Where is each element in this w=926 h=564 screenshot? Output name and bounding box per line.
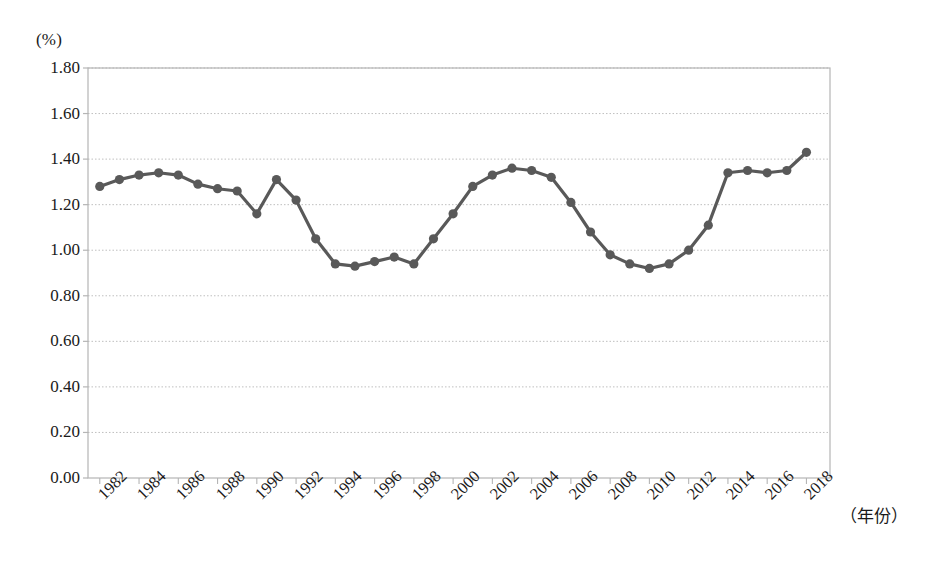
x-tick-label: 2014: [722, 467, 759, 504]
x-tick-label: 2002: [486, 467, 523, 504]
x-tick-label: 1998: [408, 467, 445, 504]
x-tick-label: 2010: [643, 467, 680, 504]
x-tick-label: 1990: [251, 467, 288, 504]
line-chart: (%) 0.000.200.400.600.801.001.201.401.60…: [0, 0, 926, 564]
x-axis-title: （年份）: [840, 502, 908, 527]
x-tick-label: 2008: [604, 467, 641, 504]
x-tick-label: 1994: [329, 467, 366, 504]
x-axis-tick-labels: （年份） 19821984198619881990199219941996199…: [0, 0, 926, 564]
x-tick-label: 1992: [290, 467, 327, 504]
x-tick-label: 2018: [800, 467, 837, 504]
x-tick-label: 2016: [761, 467, 798, 504]
x-tick-label: 2006: [565, 467, 602, 504]
x-tick-label: 2012: [683, 467, 720, 504]
x-tick-label: 1996: [369, 467, 406, 504]
x-tick-label: 1988: [212, 467, 249, 504]
x-tick-label: 2004: [526, 467, 563, 504]
x-tick-label: 1982: [94, 467, 131, 504]
x-tick-label: 1986: [172, 467, 209, 504]
x-tick-label: 2000: [447, 467, 484, 504]
x-tick-label: 1984: [133, 467, 170, 504]
